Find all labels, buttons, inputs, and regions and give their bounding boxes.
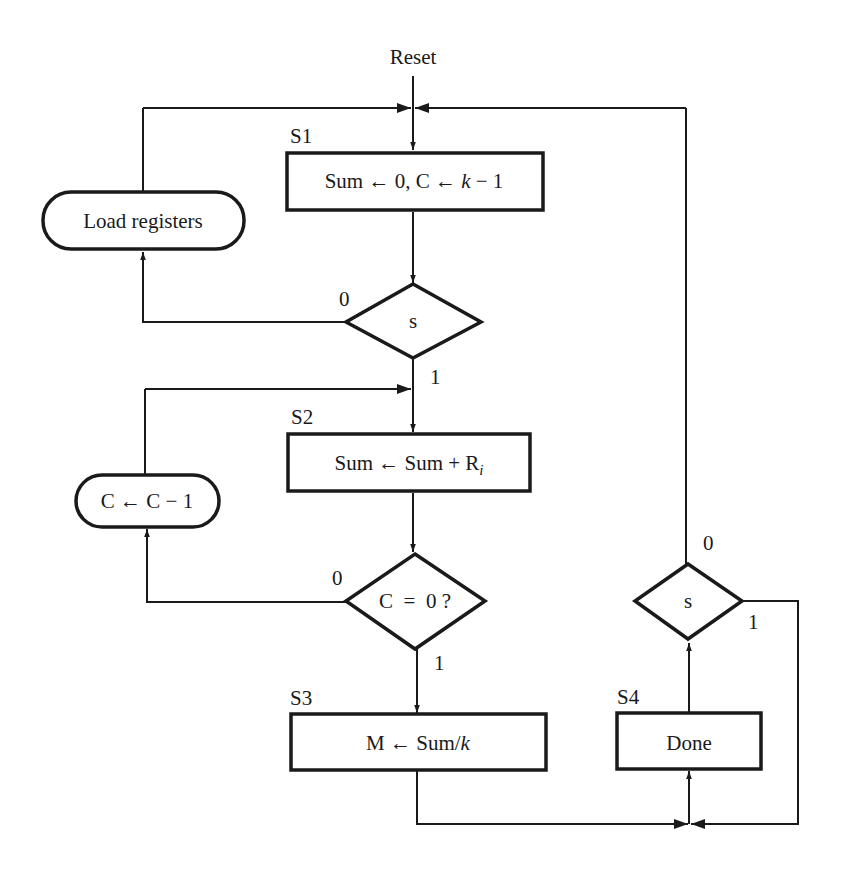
d3-branch-0: 0 [703, 531, 714, 555]
d2-branch-1: 1 [434, 651, 445, 675]
d3-branch-1: 1 [748, 610, 759, 634]
load-registers-text: Load registers [83, 209, 203, 233]
d1-0-to-load-arrow [143, 252, 346, 322]
d2-0-to-dec-arrow [147, 529, 346, 602]
decision-d2-text: C = 0 ? [379, 589, 451, 613]
decision-d1-text: s [409, 309, 417, 333]
reset-label: Reset [390, 45, 437, 69]
state-action-s1: Sum ← 0, C ← k − 1 [325, 169, 504, 193]
s3-to-s4-line [417, 771, 688, 824]
state-action-s3: M ← Sum/k [366, 731, 471, 755]
state-label-s3: S3 [290, 686, 312, 710]
d2-branch-0: 0 [332, 566, 343, 590]
asm-flowchart: Reset S1 Sum ← 0, C ← k − 1 Load registe… [0, 0, 844, 878]
decrement-text: C ← C − 1 [101, 489, 193, 513]
state-action-s2: Sum ← Sum + Ri [334, 451, 483, 478]
state-label-s4: S4 [617, 685, 640, 709]
state-action-s4: Done [666, 731, 712, 755]
d1-branch-1: 1 [430, 365, 441, 389]
decision-d3-text: s [684, 589, 692, 613]
state-label-s1: S1 [290, 124, 312, 148]
d1-branch-0: 0 [339, 287, 350, 311]
state-label-s2: S2 [291, 405, 313, 429]
